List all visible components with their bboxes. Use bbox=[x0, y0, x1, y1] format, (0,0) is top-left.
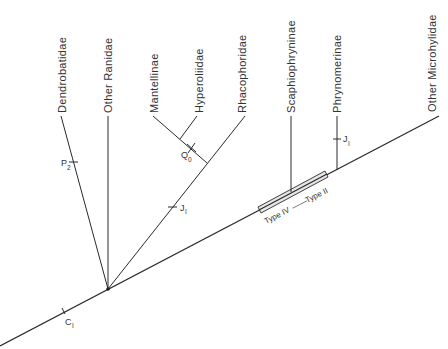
main-stem-line bbox=[0, 116, 439, 346]
svg-text:0: 0 bbox=[188, 156, 192, 163]
branch-rhacophoridae bbox=[108, 116, 245, 289]
label-hyperoliidae: Hyperoliidae bbox=[193, 48, 205, 113]
mark-j1-rhaco: J I bbox=[180, 203, 187, 215]
branch-mantellinae bbox=[153, 116, 207, 163]
mark-c1: C I bbox=[65, 317, 74, 329]
branch-dendrobatidae bbox=[61, 116, 108, 289]
label-scaphiophryninae: Scaphiophryninae bbox=[285, 20, 297, 113]
svg-text:2: 2 bbox=[67, 164, 71, 171]
svg-text:I: I bbox=[348, 140, 350, 147]
svg-text:I: I bbox=[185, 208, 187, 215]
svg-text:I: I bbox=[72, 322, 74, 329]
label-other-ranidae: Other Ranidae bbox=[102, 38, 114, 113]
label-dendrobatidae: Dendrobatidae bbox=[56, 37, 68, 113]
svg-text:J: J bbox=[343, 134, 348, 144]
label-phrynomerinae: Phrynomerinae bbox=[331, 35, 343, 114]
mark-q0: Q 0 bbox=[181, 150, 192, 163]
type-ii-label: Type II bbox=[304, 186, 329, 205]
label-mantellinae: Mantellinae bbox=[148, 53, 160, 113]
svg-text:J: J bbox=[180, 203, 185, 213]
mark-j1-phryno: J I bbox=[343, 134, 350, 147]
branch-hyperoliidae bbox=[180, 116, 197, 139]
svg-text:C: C bbox=[65, 317, 72, 327]
cladogram: Dendrobatidae Other Ranidae Mantellinae … bbox=[0, 0, 448, 349]
label-rhacophoridae: Rhacophoridae bbox=[236, 34, 248, 113]
label-other-microhylidae: Other Microhylidae bbox=[426, 14, 438, 112]
mark-p2: P 2 bbox=[61, 158, 71, 171]
svg-text:Q: Q bbox=[181, 150, 188, 160]
